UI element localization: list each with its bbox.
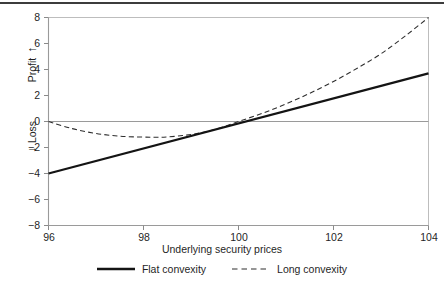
series-long-convexity [49, 18, 429, 138]
chart-legend: Flat convexity Long convexity [0, 264, 444, 275]
x-tick-label-96: 96 [30, 232, 68, 243]
x-tick-label-104: 104 [410, 232, 444, 243]
x-axis-title: Underlying security prices [0, 243, 444, 255]
legend-item-flat-convexity: Flat convexity [97, 264, 206, 275]
legend-item-long-convexity: Long convexity [232, 264, 347, 275]
y-axis-label-loss: ↓ Loss [23, 57, 41, 217]
legend-label-long-convexity: Long convexity [277, 264, 347, 275]
x-tick-label-100: 100 [220, 232, 258, 243]
x-tick-label-98: 98 [125, 232, 163, 243]
legend-swatch-dashed [232, 264, 270, 274]
x-axis-ticks [49, 226, 429, 231]
series-flat-convexity [49, 73, 429, 173]
x-tick-label-102: 102 [315, 232, 353, 243]
y-tick-label-neg-8: −8 [14, 220, 40, 231]
y-axis-ticks [44, 18, 49, 226]
arrow-down-icon: ↓ [26, 148, 38, 153]
legend-label-flat-convexity: Flat convexity [142, 264, 206, 275]
legend-swatch-solid [97, 264, 135, 274]
y-axis-label-loss-text: Loss [26, 121, 38, 143]
chart-figure: 8 6 4 2 0 −2 −4 −6 −8 96 98 100 102 104 … [0, 0, 444, 288]
arrow-up-icon: ↑ [26, 48, 38, 53]
